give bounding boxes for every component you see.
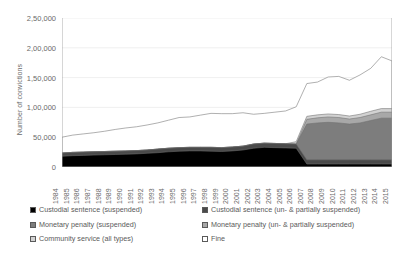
- x-tick-label: 1989: [105, 188, 112, 204]
- y-tick-label: 50,000: [33, 133, 56, 142]
- x-tick-label: 2011: [339, 189, 346, 204]
- x-tick-label: 2008: [307, 188, 314, 204]
- x-tick-label: 1985: [63, 188, 70, 204]
- x-tick-label: 2004: [265, 188, 272, 204]
- legend-row: Custodial sentence (suspended)Custodial …: [30, 206, 400, 217]
- legend-label: Custodial sentence (suspended): [39, 206, 142, 214]
- x-tick-label: 2009: [318, 188, 325, 204]
- x-tick-label: 1991: [127, 188, 134, 204]
- y-tick-label: 2,00,000: [27, 43, 56, 52]
- legend-label: Monetary penalty (suspended): [39, 221, 136, 229]
- x-tick-label: 2005: [276, 188, 283, 204]
- x-tick-label: 1992: [137, 188, 144, 204]
- plot-area: [62, 18, 392, 167]
- legend-item[interactable]: Monetary penalty (suspended): [30, 221, 202, 229]
- legend-swatch-icon: [202, 207, 208, 213]
- y-tick-label: 2,50,000: [27, 14, 56, 23]
- y-tick-label: 1,00,000: [27, 103, 56, 112]
- legend-swatch-icon: [202, 222, 208, 228]
- y-axis-tick-labels: 050,0001,00,0001,50,0002,00,0002,50,000: [0, 0, 60, 200]
- x-tick-label: 1995: [169, 188, 176, 204]
- x-tick-label: 1988: [95, 188, 102, 204]
- x-tick-label: 1997: [190, 188, 197, 204]
- legend-swatch-icon: [202, 236, 208, 242]
- x-tick-label: 2010: [329, 188, 336, 204]
- x-tick-label: 2007: [297, 188, 304, 204]
- x-tick-label: 1996: [180, 188, 187, 204]
- x-tick-label: 2000: [222, 188, 229, 204]
- chart-legend: Custodial sentence (suspended)Custodial …: [30, 206, 400, 250]
- legend-item[interactable]: Custodial sentence (un- & partially susp…: [202, 206, 400, 214]
- chart-container: Number of convictions 050,0001,00,0001,5…: [0, 0, 408, 258]
- legend-label: Custodial sentence (un- & partially susp…: [211, 206, 360, 214]
- legend-label: Monetary penalty (un- & partially suspen…: [211, 221, 354, 229]
- x-tick-label: 1984: [52, 188, 59, 204]
- x-tick-label: 1990: [116, 188, 123, 204]
- x-tick-label: 2006: [286, 188, 293, 204]
- stacked-area-chart: [62, 18, 392, 167]
- legend-label: Fine: [211, 235, 225, 243]
- x-tick-label: 2001: [233, 188, 240, 204]
- y-tick-label: 0: [52, 163, 56, 172]
- x-axis-tick-labels: 1984198519861987198819891990199119921993…: [62, 170, 392, 204]
- x-tick-label: 2013: [361, 188, 368, 204]
- x-tick-label: 2014: [371, 188, 378, 204]
- x-tick-label: 1994: [158, 188, 165, 204]
- legend-row: Monetary penalty (suspended)Monetary pen…: [30, 221, 400, 232]
- legend-item[interactable]: Fine: [202, 235, 400, 243]
- x-tick-label: 1998: [201, 188, 208, 204]
- x-tick-label: 1999: [212, 188, 219, 204]
- legend-item[interactable]: Community service (all types): [30, 235, 202, 243]
- x-tick-label: 2015: [382, 188, 389, 204]
- x-tick-label: 2002: [244, 188, 251, 204]
- legend-item[interactable]: Custodial sentence (suspended): [30, 206, 202, 214]
- legend-row: Community service (all types)Fine: [30, 235, 400, 246]
- legend-item[interactable]: Monetary penalty (un- & partially suspen…: [202, 221, 400, 229]
- y-tick-label: 1,50,000: [27, 73, 56, 82]
- legend-label: Community service (all types): [39, 235, 133, 243]
- x-tick-label: 1993: [148, 188, 155, 204]
- legend-swatch-icon: [30, 207, 36, 213]
- x-tick-label: 2003: [254, 188, 261, 204]
- legend-swatch-icon: [30, 222, 36, 228]
- legend-swatch-icon: [30, 236, 36, 242]
- x-tick-label: 1986: [73, 188, 80, 204]
- x-tick-label: 1987: [84, 188, 91, 204]
- x-tick-label: 2012: [350, 188, 357, 204]
